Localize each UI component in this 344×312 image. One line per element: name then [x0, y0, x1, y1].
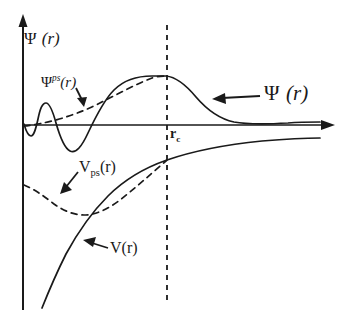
x-axis-arrowhead: [321, 120, 335, 130]
psi-leader-arrow: [212, 93, 260, 104]
y-axis: [19, 14, 28, 310]
v-pseudo-arg: (r): [100, 158, 116, 175]
rc-label: rc: [170, 127, 180, 144]
psi-all-electron-symbol: Ψ: [264, 81, 280, 105]
v-pseudo-symbol: V: [79, 158, 91, 175]
pseudopotential-figure: Ψ (r) Ψps(r) Ψ (r) rc Vps(r) V(r): [0, 0, 344, 312]
v-pseudo-subscript: ps: [91, 167, 100, 178]
v-all-electron-label: V(r): [110, 240, 138, 256]
psi-axis-label: Ψ (r): [24, 30, 60, 47]
psi-pseudo-leader-arrow: [76, 88, 87, 107]
psi-pseudo-symbol: Ψ: [41, 74, 52, 90]
rc-subscript: c: [176, 134, 180, 144]
v-all-electron-symbol: V: [110, 239, 122, 256]
v-pseudo-label: Vps(r): [79, 159, 116, 179]
psi-axis-arg: (r): [42, 29, 60, 48]
y-axis-arrowhead: [19, 14, 28, 27]
v-all-electron-arg: (r): [122, 239, 138, 256]
v-leader-arrow: [83, 237, 108, 248]
psi-pseudo-label: Ψps(r): [41, 74, 76, 90]
psi-all-electron-arg: (r): [286, 81, 308, 105]
psi-pseudo-arg: (r): [60, 74, 76, 90]
psi-all-electron-label: Ψ (r): [264, 83, 308, 104]
v-pseudo-leader-arrow: [60, 172, 78, 194]
psi-axis-symbol: Ψ: [24, 29, 37, 48]
